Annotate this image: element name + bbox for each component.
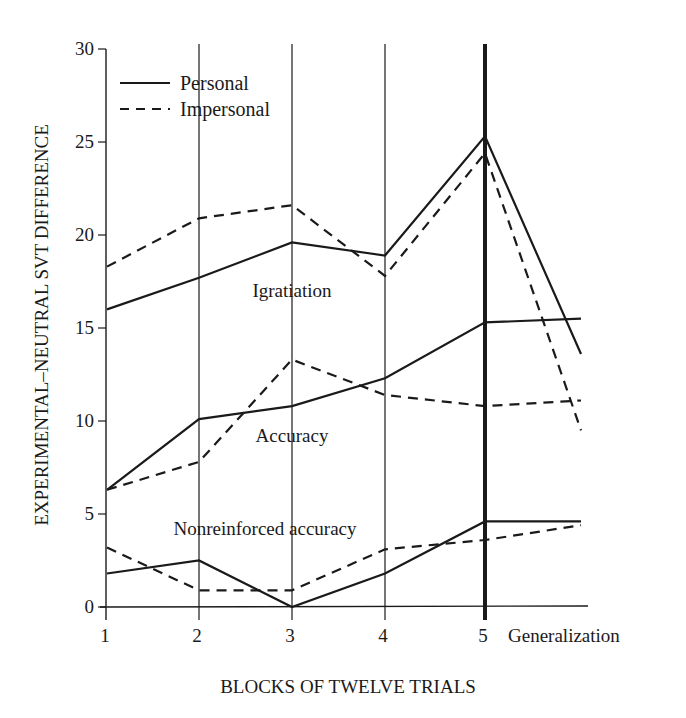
y-tick-label: 20 [75, 224, 94, 245]
y-tick-label: 0 [85, 596, 95, 617]
annotation-label: Igratiation [252, 280, 332, 301]
y-tick-label: 25 [75, 131, 94, 152]
y-tick-label: 10 [75, 410, 94, 431]
y-axis-title: EXPERIMENTAL–NEUTRAL SVT DIFFERENCE [31, 124, 52, 526]
x-tick-label-generalization: Generalization [508, 625, 620, 646]
y-tick-label: 5 [85, 503, 95, 524]
line-chart: 051015202530 12345Generalization Persona… [0, 0, 686, 718]
legend: PersonalImpersonal [120, 72, 270, 121]
x-axis-title: BLOCKS OF TWELVE TRIALS [220, 676, 476, 697]
x-tick-label: 1 [100, 625, 110, 646]
x-tick-label: 2 [192, 625, 202, 646]
series-line-accuracy-dashed [107, 360, 581, 490]
annotation-label: Accuracy [256, 425, 329, 446]
annotation-label: Nonreinforced accuracy [173, 518, 357, 539]
y-tick-label: 15 [75, 317, 94, 338]
x-tick-label: 4 [378, 625, 388, 646]
legend-label: Personal [180, 72, 249, 94]
y-tick-label: 30 [75, 38, 94, 59]
x-tick-label: 5 [478, 625, 488, 646]
y-axis-ticks: 051015202530 [75, 38, 106, 617]
legend-label: Impersonal [180, 98, 270, 121]
x-axis-ticks: 12345Generalization [100, 625, 620, 646]
x-tick-label: 3 [285, 625, 295, 646]
chart-canvas: 051015202530 12345Generalization Persona… [0, 0, 686, 718]
x-axis-line [100, 606, 588, 607]
